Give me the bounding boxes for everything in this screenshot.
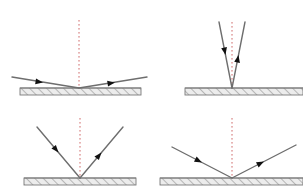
incident-ray-arrowhead [194,157,203,166]
incident-ray [12,77,79,88]
panel-top-left [12,20,147,95]
panel-bottom-left [24,118,136,185]
diagram-canvas [0,0,303,195]
reflection-diagram-figure [0,0,303,195]
surface-hatched-bar [20,88,141,95]
surface-hatched-bar [185,88,303,95]
panel-top-right [185,22,303,95]
reflected-ray [80,127,123,178]
surface-hatched-bar [24,178,136,185]
panel-bottom-right [160,118,303,185]
reflected-ray-arrowhead [256,159,265,168]
surface-hatched-bar [160,178,303,185]
panels-group [12,20,303,185]
reflected-ray-arrowhead [107,80,115,87]
